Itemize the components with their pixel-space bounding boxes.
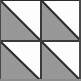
pattern-canvas [0,0,81,81]
tile-bottom-left [1,42,40,80]
tile-top-right [42,1,80,40]
tile-bottom-right [42,42,80,80]
tile-top-left [1,1,40,40]
tiling-pattern-figure: Two-by-two tiling of half-square triangl… [0,0,81,81]
